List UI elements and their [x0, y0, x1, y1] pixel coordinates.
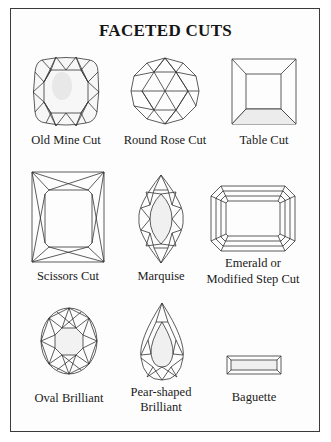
label-table-cut: Table Cut: [209, 133, 319, 148]
label-emerald-line2: Modified Step Cut: [198, 272, 308, 287]
old-mine-cut-drawing: [33, 57, 99, 126]
table-cut-drawing: [232, 59, 296, 124]
baguette-drawing: [227, 356, 281, 374]
pear-shaped-brilliant-drawing: [141, 303, 184, 380]
label-old-mine-cut: Old Mine Cut: [11, 133, 121, 148]
round-rose-cut-drawing: [131, 58, 199, 124]
marquise-drawing: [139, 175, 183, 263]
scissors-cut-drawing: [32, 172, 104, 262]
label-round-rose-cut: Round Rose Cut: [110, 133, 220, 148]
oval-brilliant-drawing: [41, 308, 97, 374]
label-baguette: Baguette: [199, 390, 309, 405]
label-emerald-line1: Emerald or: [198, 256, 308, 271]
emerald-cut-drawing: [211, 186, 295, 251]
